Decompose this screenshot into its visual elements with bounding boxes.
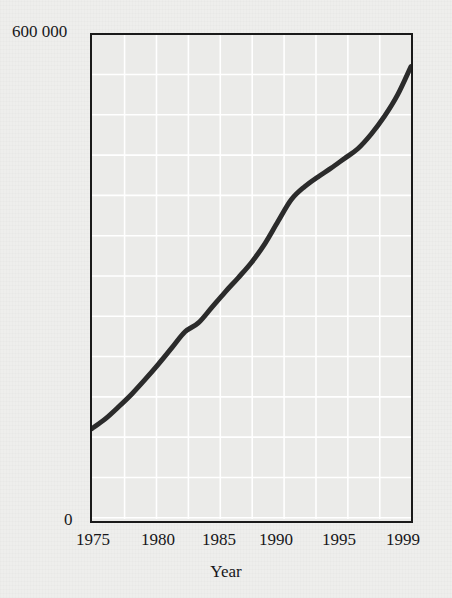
x-axis-tick-label: 1980 bbox=[141, 530, 175, 550]
x-axis-tick-label: 1990 bbox=[259, 530, 293, 550]
x-axis-tick-label: 1975 bbox=[76, 530, 110, 550]
y-axis-max-tick-label: 600 000 bbox=[12, 22, 67, 42]
y-axis-min-tick-label: 0 bbox=[64, 510, 73, 530]
x-axis-tick-label: 1995 bbox=[322, 530, 356, 550]
x-axis-title: Year bbox=[0, 562, 452, 582]
chart-figure: 600 000 0 Total personal disposable inco… bbox=[0, 0, 452, 598]
y-axis-title-container: Total personal disposable income bbox=[0, 0, 90, 523]
plot-area bbox=[90, 33, 413, 523]
x-axis-tick-label: 1999 bbox=[386, 530, 420, 550]
x-axis-tick-label: 1985 bbox=[202, 530, 236, 550]
data-series-line bbox=[92, 35, 411, 519]
